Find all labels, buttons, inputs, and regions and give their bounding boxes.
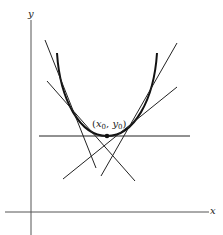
tangent-point-marker — [105, 134, 110, 139]
point-label: (x0, y0) — [92, 119, 126, 131]
y-axis-label: y — [28, 9, 34, 19]
tangent-line-steep-right — [101, 43, 177, 176]
tangent-lines-diagram: y x (x0, y0) — [0, 0, 223, 235]
tangent-line-steep-left — [45, 40, 96, 168]
tangent-line-right — [63, 87, 177, 179]
paren-close: ) — [123, 118, 127, 129]
x-axis-label: x — [210, 206, 216, 216]
